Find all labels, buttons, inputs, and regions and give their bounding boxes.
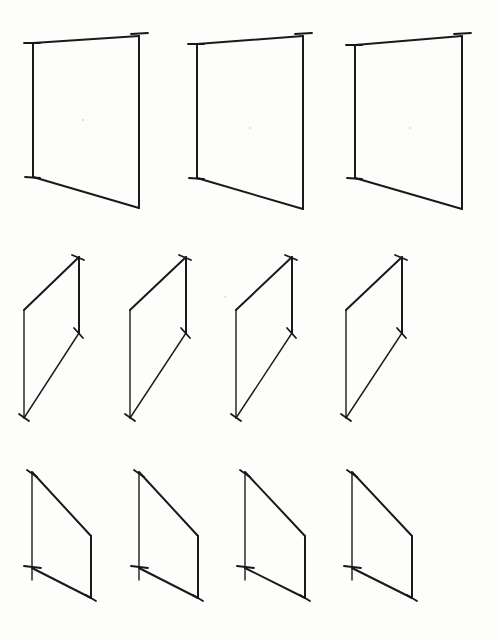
edge-top: [197, 36, 303, 44]
corner-tick-2: [237, 566, 254, 568]
edge-top: [352, 472, 412, 536]
corner-tick-3: [347, 178, 362, 179]
edge-top: [33, 36, 139, 43]
paper-speck-1: [82, 119, 84, 121]
corner-tick-2: [454, 33, 471, 34]
line-drawing-figure: [0, 0, 498, 640]
corner-tick-2: [295, 33, 312, 34]
edge-top: [139, 472, 198, 536]
paper-speck-3: [409, 127, 411, 129]
edge-diagonal: [130, 333, 186, 418]
quad-row3-3: [237, 470, 310, 601]
corner-tick-3: [25, 177, 40, 178]
edge-bottom: [32, 568, 91, 598]
quad-row3-4: [344, 470, 417, 601]
figure-canvas: [0, 0, 498, 640]
edge-top: [346, 257, 402, 310]
corner-tick-2: [131, 33, 148, 34]
edge-top: [130, 257, 186, 310]
parallelogram-row2-4: [341, 255, 407, 421]
corner-tick-2: [24, 566, 41, 568]
edge-bottom: [33, 177, 139, 208]
quad-row1-3: [346, 33, 471, 209]
parallelogram-row2-3: [231, 255, 297, 421]
quad-row3-1: [24, 470, 96, 601]
edge-bottom: [245, 568, 305, 598]
edge-diagonal: [24, 333, 79, 418]
row-1: [24, 33, 471, 209]
corner-tick-2: [131, 566, 148, 568]
paper-speck-2: [249, 127, 251, 129]
edge-top: [355, 36, 462, 45]
edge-top: [32, 472, 91, 536]
edge-diagonal: [236, 333, 292, 418]
edge-top: [245, 472, 305, 536]
paper-speck-4: [224, 296, 226, 298]
edge-bottom: [197, 178, 303, 209]
quad-row1-1: [24, 33, 148, 208]
quad-row1-2: [188, 33, 312, 209]
corner-tick-3: [189, 178, 204, 179]
edge-top: [236, 257, 292, 310]
parallelogram-row2-2: [125, 255, 191, 421]
edge-bottom: [139, 568, 198, 598]
edge-bottom: [355, 178, 462, 209]
row-2: [19, 255, 407, 421]
edge-diagonal: [346, 333, 402, 418]
edge-bottom: [352, 568, 412, 598]
quad-row3-2: [131, 470, 203, 601]
parallelogram-row2-1: [19, 255, 84, 421]
corner-tick-2: [344, 566, 361, 568]
row-3: [24, 470, 417, 601]
edge-top: [24, 257, 79, 310]
